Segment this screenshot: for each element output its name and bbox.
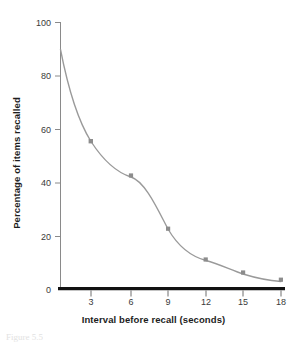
curve-helper: [61, 50, 131, 185]
x-tick-label-3: 3: [79, 297, 103, 307]
x-tick-label-6: 6: [119, 297, 143, 307]
y-tick-label-40: 40: [20, 178, 51, 188]
x-tick-label-12: 12: [194, 297, 218, 307]
fit-curve: [61, 50, 282, 282]
data-point-6s: [129, 173, 133, 177]
data-point-markers: [89, 139, 283, 282]
y-axis-ticks: [55, 23, 61, 237]
data-point-18s: [279, 278, 283, 282]
x-tick-label-9: 9: [156, 297, 180, 307]
x-tick-label-18: 18: [269, 297, 293, 307]
x-tick-label-15: 15: [231, 297, 255, 307]
figure-caption: Figure 5.5: [6, 332, 43, 344]
data-point-12s: [204, 257, 208, 261]
y-tick-label-80: 80: [20, 71, 51, 81]
y-tick-label-100: 100: [20, 18, 51, 28]
x-axis-title-text: Interval before recall (seconds): [82, 314, 226, 325]
data-point-15s: [241, 270, 245, 274]
y-tick-label-20: 20: [20, 232, 51, 242]
data-point-9s: [166, 227, 170, 231]
figure-container: 100 80 60 40 20 0 3 6 9 12 15 18 Percent…: [0, 0, 307, 346]
x-axis-ticks: [91, 290, 281, 296]
y-tick-label-60: 60: [20, 125, 51, 135]
data-point-3s: [89, 139, 93, 143]
x-axis-title: Interval before recall (seconds): [0, 309, 307, 327]
y-tick-label-0: 0: [20, 285, 51, 295]
